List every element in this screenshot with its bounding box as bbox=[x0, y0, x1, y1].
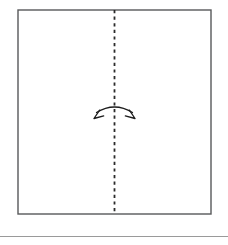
fold-diagram-svg bbox=[0, 0, 228, 245]
diagram-canvas bbox=[0, 0, 228, 245]
